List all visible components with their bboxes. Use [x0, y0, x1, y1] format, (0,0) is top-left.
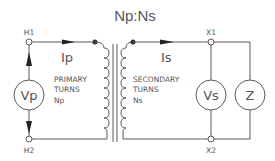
is-label: Is: [161, 50, 172, 65]
x2-terminal: [208, 136, 214, 142]
x2-label: X2: [206, 146, 216, 155]
down-arrow-icon: [26, 121, 32, 134]
vs-label: Vs: [203, 88, 219, 103]
secondary-label-line2: TURNS: [132, 85, 159, 94]
secondary-label-line1: SECONDARY: [133, 75, 180, 84]
x1-terminal: [208, 39, 214, 45]
h1-label: H1: [24, 28, 35, 37]
h1-terminal: [26, 39, 32, 45]
turns-ratio-title: Np:Ns: [114, 7, 156, 24]
ip-label: Ip: [61, 50, 73, 65]
is-arrow-icon: [160, 40, 174, 45]
h2-label: H2: [24, 146, 35, 155]
vp-label: Vp: [20, 88, 37, 103]
x1-label: X1: [206, 28, 216, 37]
z-label: Z: [246, 88, 255, 103]
ip-arrow-icon: [62, 40, 75, 45]
primary-label-line1: PRIMARY: [54, 75, 87, 84]
primary-label-line3: Np: [54, 96, 65, 105]
h2-terminal: [26, 136, 32, 142]
transformer-diagram: Np:Ns: [0, 0, 275, 161]
secondary-label-line3: Ns: [133, 96, 143, 105]
up-arrow-icon: [26, 52, 32, 66]
primary-coil: [104, 48, 109, 139]
secondary-coil: [121, 48, 126, 139]
primary-label-line2: TURNS: [53, 85, 80, 94]
